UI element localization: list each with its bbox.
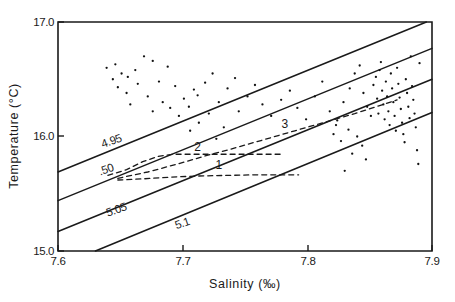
data-point — [417, 163, 419, 165]
data-point — [342, 101, 344, 103]
x-tick-label-3: 7.9 — [425, 255, 440, 267]
y-tick-label-1: 16.0 — [33, 130, 54, 142]
data-point — [152, 60, 154, 62]
data-point — [344, 170, 346, 172]
data-point — [332, 133, 334, 135]
data-point — [416, 149, 418, 151]
data-point — [218, 101, 220, 103]
trajectory-curve-3 — [118, 100, 397, 178]
data-point — [412, 99, 414, 101]
data-point — [129, 103, 131, 105]
data-point — [392, 101, 394, 103]
isopycnal-label-2: 5.05 — [105, 200, 129, 218]
data-point — [314, 95, 316, 97]
data-point — [137, 83, 139, 85]
data-point — [158, 80, 160, 82]
data-point — [208, 112, 210, 114]
data-point — [183, 98, 185, 100]
x-axis-ticks — [58, 245, 432, 251]
data-point — [403, 141, 405, 143]
data-point — [386, 95, 388, 97]
data-point — [340, 140, 342, 142]
data-point — [380, 61, 382, 63]
data-point — [305, 118, 307, 120]
data-point — [381, 90, 383, 92]
trajectory-label-2: 2 — [194, 140, 201, 154]
data-point — [382, 103, 384, 105]
data-point — [396, 67, 398, 69]
data-point — [393, 115, 395, 117]
data-point — [112, 78, 114, 80]
data-point — [366, 106, 368, 108]
data-point — [335, 124, 337, 126]
data-point — [120, 72, 122, 74]
data-point — [226, 87, 228, 89]
data-point — [385, 80, 387, 82]
y-axis-title: Temperature (°C) — [7, 83, 21, 189]
data-point — [415, 126, 417, 128]
data-point — [408, 117, 410, 119]
ts-diagram-canvas: 7.6 7.7 7.8 7.9 17.0 16.0 15.0 Salinity … — [0, 0, 455, 302]
x-tick-label-1: 7.7 — [176, 255, 191, 267]
data-point — [162, 101, 164, 103]
data-point — [198, 122, 200, 124]
data-point — [405, 78, 407, 80]
data-point — [397, 83, 399, 85]
data-point — [370, 115, 372, 117]
inline-labels: 4.95.505.055.1123 — [97, 117, 288, 231]
data-point — [174, 85, 176, 87]
data-point — [365, 158, 367, 160]
data-point — [188, 106, 190, 108]
y-tick-labels: 17.0 16.0 15.0 — [33, 16, 54, 257]
isopycnal-line-5-1 — [95, 112, 432, 251]
data-point — [375, 76, 377, 78]
isopycnal-line--50 — [58, 48, 432, 200]
data-point — [147, 95, 149, 97]
trajectory-label-3: 3 — [282, 117, 289, 131]
data-point — [398, 96, 400, 98]
data-point — [329, 110, 331, 112]
data-point — [193, 88, 195, 90]
data-point — [270, 115, 272, 117]
data-point — [400, 108, 402, 110]
x-tick-labels: 7.6 7.7 7.8 7.9 — [51, 255, 440, 267]
data-point — [246, 95, 248, 97]
data-point — [391, 87, 393, 89]
y-tick-label-2: 17.0 — [33, 16, 54, 28]
trajectory-curve-2 — [108, 154, 283, 175]
data-point — [167, 66, 169, 68]
trajectory-label-1: 1 — [215, 158, 222, 172]
data-point — [395, 130, 397, 132]
data-point — [204, 82, 206, 84]
data-point — [169, 107, 171, 109]
data-point — [411, 85, 413, 87]
data-point — [410, 55, 412, 57]
data-point — [356, 135, 358, 137]
data-point — [234, 77, 236, 79]
data-point — [413, 112, 415, 114]
data-point — [388, 124, 390, 126]
data-point — [349, 87, 351, 89]
data-point — [105, 67, 107, 69]
data-point — [289, 90, 291, 92]
x-tick-label-2: 7.8 — [301, 255, 316, 267]
y-tick-label-0: 15.0 — [33, 245, 54, 257]
data-point — [215, 138, 217, 140]
data-point — [261, 103, 263, 105]
data-point — [321, 80, 323, 82]
data-point — [377, 112, 379, 114]
data-point — [351, 153, 353, 155]
data-point — [406, 92, 408, 94]
data-point — [114, 63, 116, 65]
data-point — [336, 119, 338, 121]
x-axis-title: Salinity (‰) — [209, 277, 281, 291]
temperature-salinity-figure: 7.6 7.7 7.8 7.9 17.0 16.0 15.0 Salinity … — [0, 0, 455, 302]
y-axis-ticks — [58, 22, 64, 251]
data-point — [376, 98, 378, 100]
data-point — [196, 94, 198, 96]
data-point — [125, 92, 127, 94]
data-point — [254, 84, 256, 86]
data-point — [361, 145, 363, 147]
data-point — [418, 62, 420, 64]
data-point — [211, 72, 213, 74]
